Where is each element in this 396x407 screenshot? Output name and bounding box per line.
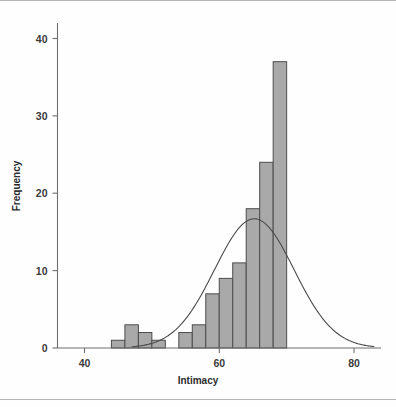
y-tick-label: 30 bbox=[36, 110, 48, 122]
x-tick-label: 80 bbox=[348, 357, 360, 369]
y-tick-label: 0 bbox=[42, 342, 48, 354]
histogram-bar bbox=[111, 340, 124, 348]
y-axis-ticks: 010203040 bbox=[36, 33, 58, 355]
x-tick-label: 40 bbox=[79, 357, 91, 369]
y-axis-title: Frequency bbox=[11, 160, 22, 211]
histogram-bar bbox=[192, 325, 205, 348]
x-axis-title: Intimacy bbox=[178, 375, 219, 386]
histogram-bar bbox=[233, 263, 246, 348]
histogram-bar bbox=[273, 62, 286, 348]
histogram-bar bbox=[206, 294, 219, 348]
histogram-bars bbox=[111, 62, 286, 348]
x-tick-label: 60 bbox=[213, 357, 225, 369]
histogram-bar bbox=[219, 278, 232, 348]
histogram-figure: 010203040 406080 Intimacy Frequency bbox=[0, 0, 396, 407]
y-tick-label: 40 bbox=[36, 33, 48, 45]
histogram-bar bbox=[179, 333, 192, 348]
histogram-bar bbox=[260, 162, 273, 348]
histogram-bar bbox=[246, 209, 259, 348]
y-tick-label: 20 bbox=[36, 187, 48, 199]
histogram-bar bbox=[125, 325, 138, 348]
chart-canvas: 010203040 406080 Intimacy Frequency bbox=[0, 0, 396, 407]
y-tick-label: 10 bbox=[36, 265, 48, 277]
x-axis-ticks: 406080 bbox=[79, 348, 360, 369]
